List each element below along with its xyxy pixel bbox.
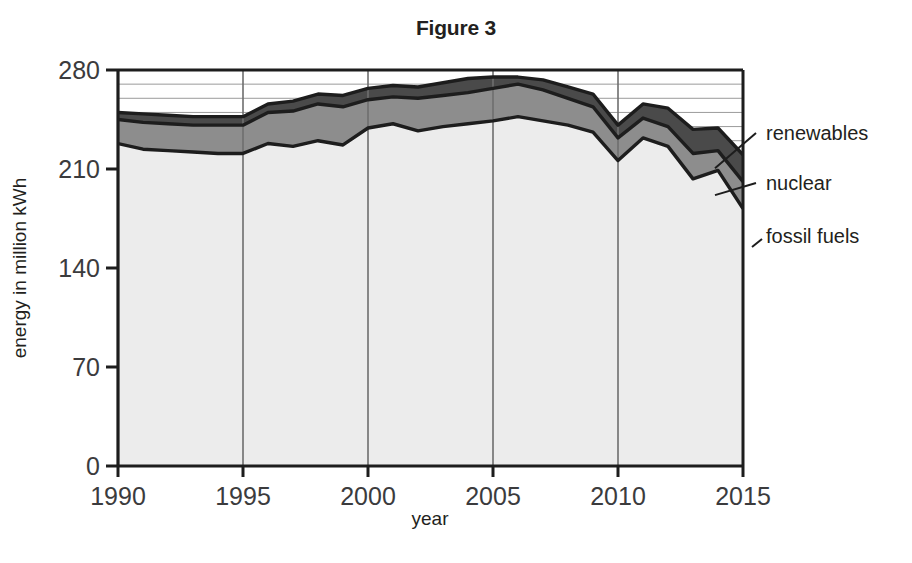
x-tick-label: 1995 — [215, 482, 271, 510]
y-tick-label: 280 — [58, 56, 100, 84]
series-annotation-labels: renewablesnuclearfossil fuels — [766, 122, 868, 247]
x-axis-title: year — [412, 508, 450, 529]
x-tick-label: 2000 — [340, 482, 396, 510]
series-label-renewables: renewables — [766, 122, 868, 144]
figure-container: Figure 3 0701402102801990199520002005201… — [0, 0, 912, 563]
stacked-area-chart: 070140210280199019952000200520102015 ren… — [0, 0, 912, 563]
x-tick-label: 1990 — [90, 482, 146, 510]
x-tick-label: 2015 — [715, 482, 771, 510]
x-tick-label: 2005 — [465, 482, 521, 510]
y-tick-label: 70 — [72, 353, 100, 381]
series-label-fossil-fuels: fossil fuels — [766, 225, 859, 247]
y-tick-label: 0 — [86, 452, 100, 480]
area-bands — [118, 77, 743, 466]
series-label-nuclear: nuclear — [766, 172, 832, 194]
y-axis-title: energy in million kWh — [9, 178, 30, 359]
x-tick-label: 2010 — [590, 482, 646, 510]
y-tick-label: 140 — [58, 254, 100, 282]
y-tick-label: 210 — [58, 155, 100, 183]
